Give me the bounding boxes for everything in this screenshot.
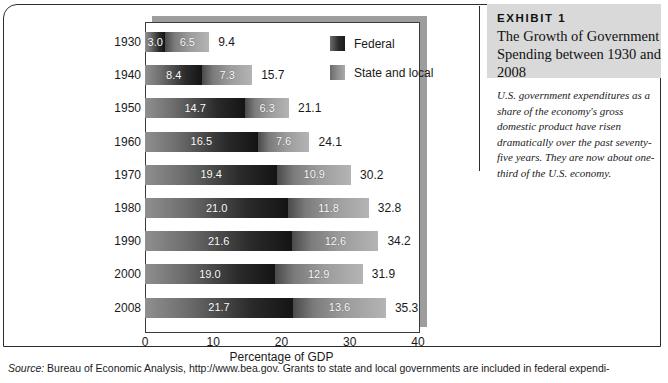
bar-value-federal-2000: 19.0	[199, 269, 220, 280]
bar-value-federal-1950: 14.7	[184, 103, 205, 114]
bar-value-federal-1990: 21.6	[208, 236, 229, 247]
bar-segment-federal-2000: 19.0	[145, 264, 275, 284]
bar-row-1960: 16.57.6	[145, 132, 309, 152]
bar-row-2000: 19.012.9	[145, 264, 363, 284]
bar-total-2008: 35.3	[395, 301, 418, 315]
bar-segment-state-and-local-1950: 6.3	[245, 98, 289, 118]
bar-segment-state-and-local-1990: 12.6	[292, 231, 378, 251]
bar-segment-federal-1980: 21.0	[145, 198, 288, 218]
federal-swatch-icon	[330, 36, 345, 51]
chart-legend: Federal State and local	[330, 36, 450, 94]
bar-total-1960: 24.1	[318, 135, 341, 149]
x-axis-tick-20: 20	[275, 335, 288, 349]
bar-row-1990: 21.612.6	[145, 231, 378, 251]
bar-row-1970: 19.410.9	[145, 165, 351, 185]
bar-value-federal-2008: 21.7	[208, 302, 229, 313]
bar-segment-federal-1970: 19.4	[145, 165, 277, 185]
bar-segment-federal-1990: 21.6	[145, 231, 292, 251]
bar-segment-state-and-local-2000: 12.9	[275, 264, 363, 284]
y-axis-label-1990: 1990	[97, 235, 141, 247]
bar-total-1940: 15.7	[261, 68, 284, 82]
chart-panel: 193019401950196019701980199020002008 3.0…	[0, 0, 470, 352]
y-axis-label-1980: 1980	[97, 202, 141, 214]
legend-label-federal: Federal	[354, 37, 395, 51]
legend-label-state-and-local: State and local	[354, 66, 433, 80]
bar-value-federal-1930: 3.0	[148, 37, 163, 48]
y-axis-label-2000: 2000	[97, 268, 141, 280]
y-axis-label-1930: 1930	[97, 36, 141, 48]
bar-total-1970: 30.2	[360, 168, 383, 182]
bar-value-state-and-local-1980: 11.8	[318, 203, 339, 214]
bar-segment-state-and-local-1980: 11.8	[288, 198, 369, 218]
bar-segment-state-and-local-1940: 7.3	[202, 65, 252, 85]
bar-value-federal-1980: 21.0	[206, 203, 227, 214]
bar-segment-state-and-local-1960: 7.6	[258, 132, 310, 152]
exhibit-caption: U.S. government expenditures as a share …	[497, 88, 657, 182]
bar-segment-federal-2008: 21.7	[145, 298, 293, 318]
source-label: Source:	[8, 362, 44, 374]
source-note: Source: Bureau of Economic Analysis, htt…	[8, 362, 660, 376]
bar-value-federal-1960: 16.5	[191, 136, 212, 147]
bar-total-2000: 31.9	[372, 267, 395, 281]
source-text: Bureau of Economic Analysis, http://www.…	[47, 362, 609, 374]
legend-item-state-and-local: State and local	[330, 65, 450, 80]
y-axis-year-labels: 193019401950196019701980199020002008	[95, 22, 141, 331]
bar-row-1950: 14.76.3	[145, 98, 289, 118]
exhibit-heading: EXHIBIT 1 The Growth of Government Spend…	[497, 12, 661, 81]
bar-segment-federal-1950: 14.7	[145, 98, 245, 118]
bar-value-federal-1940: 8.4	[166, 70, 181, 81]
x-axis-tick-0: 0	[142, 335, 149, 349]
bar-segment-state-and-local-1970: 10.9	[277, 165, 351, 185]
exhibit-kicker: EXHIBIT 1	[497, 12, 661, 24]
y-axis-label-2008: 2008	[97, 302, 141, 314]
bar-value-state-and-local-1970: 10.9	[304, 169, 325, 180]
exhibit-divider	[479, 6, 480, 171]
y-axis-label-1970: 1970	[97, 169, 141, 181]
bar-segment-federal-1930: 3.0	[145, 32, 165, 52]
x-axis-tick-30: 30	[343, 335, 356, 349]
bar-value-state-and-local-2008: 13.6	[329, 302, 350, 313]
bar-total-1950: 21.1	[298, 101, 321, 115]
bar-value-state-and-local-1990: 12.6	[325, 236, 346, 247]
bar-segment-federal-1940: 8.4	[145, 65, 202, 85]
bar-value-state-and-local-1950: 6.3	[260, 103, 275, 114]
bar-row-1980: 21.011.8	[145, 198, 369, 218]
bar-segment-federal-1960: 16.5	[145, 132, 258, 152]
bar-value-state-and-local-1960: 7.6	[276, 136, 291, 147]
y-axis-label-1960: 1960	[97, 136, 141, 148]
bar-row-1940: 8.47.3	[145, 65, 252, 85]
exhibit-title: The Growth of Government Spending betwee…	[497, 28, 661, 81]
y-axis-label-1950: 1950	[97, 102, 141, 114]
bar-value-state-and-local-2000: 12.9	[308, 269, 329, 280]
x-axis-ticks: 010203040	[145, 335, 418, 351]
legend-item-federal: Federal	[330, 36, 450, 51]
bar-segment-state-and-local-2008: 13.6	[293, 298, 386, 318]
state-and-local-swatch-icon	[330, 65, 345, 80]
bar-total-1930: 9.4	[218, 35, 235, 49]
bar-value-state-and-local-1930: 6.5	[180, 37, 195, 48]
y-axis-label-1940: 1940	[97, 69, 141, 81]
x-axis-tick-10: 10	[207, 335, 220, 349]
bar-row-1930: 3.06.5	[145, 32, 209, 52]
bar-value-state-and-local-1940: 7.3	[220, 70, 235, 81]
bar-total-1990: 34.2	[387, 234, 410, 248]
bar-total-1980: 32.8	[378, 201, 401, 215]
bar-row-2008: 21.713.6	[145, 298, 386, 318]
x-axis-tick-40: 40	[411, 335, 424, 349]
bar-segment-state-and-local-1930: 6.5	[165, 32, 209, 52]
bar-value-federal-1970: 19.4	[200, 169, 221, 180]
